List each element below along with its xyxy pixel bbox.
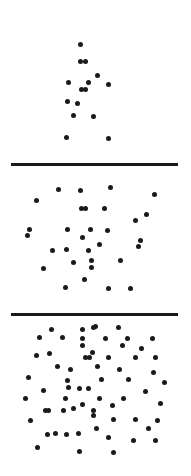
data-point <box>143 389 148 394</box>
data-point <box>50 248 55 253</box>
data-point <box>126 377 131 382</box>
data-point <box>94 426 99 431</box>
data-point <box>106 435 111 440</box>
data-point <box>150 336 155 341</box>
data-point <box>139 346 144 351</box>
data-point <box>56 187 61 192</box>
data-point <box>88 227 93 232</box>
data-point <box>65 99 70 104</box>
data-point <box>80 235 85 240</box>
data-point <box>80 343 85 348</box>
data-point <box>89 258 94 263</box>
data-point <box>146 426 151 431</box>
data-point <box>83 206 88 211</box>
data-point <box>83 59 88 64</box>
data-point <box>125 336 130 341</box>
data-point <box>153 438 158 443</box>
data-point <box>151 370 156 375</box>
data-point <box>106 82 111 87</box>
data-point <box>71 260 76 265</box>
data-point <box>64 247 69 252</box>
dot-density-figure <box>0 0 191 476</box>
data-point <box>34 353 39 358</box>
data-point <box>83 87 88 92</box>
data-point <box>80 402 85 407</box>
data-point <box>55 364 60 369</box>
data-point <box>97 396 102 401</box>
data-point <box>71 113 76 118</box>
data-point <box>45 432 50 437</box>
data-point <box>95 364 100 369</box>
data-point <box>47 351 52 356</box>
data-point <box>131 438 136 443</box>
data-point <box>66 80 71 85</box>
data-point <box>41 388 46 393</box>
data-point <box>99 377 104 382</box>
data-point <box>71 406 76 411</box>
data-point <box>86 80 91 85</box>
data-point <box>26 375 31 380</box>
data-point <box>78 42 83 47</box>
data-point <box>63 285 68 290</box>
data-point <box>64 432 69 437</box>
data-point <box>86 386 91 391</box>
data-point <box>75 101 80 106</box>
data-point <box>162 380 167 385</box>
data-point <box>103 336 108 341</box>
data-point <box>91 114 96 119</box>
panel-divider-2 <box>11 313 178 316</box>
data-point <box>128 286 133 291</box>
data-point <box>86 248 91 253</box>
data-point <box>25 233 30 238</box>
data-point <box>80 336 85 341</box>
data-point <box>106 286 111 291</box>
data-point <box>102 206 107 211</box>
data-point <box>78 188 83 193</box>
data-point <box>97 242 102 247</box>
data-point <box>28 418 33 423</box>
panel-divider-1 <box>11 163 178 166</box>
data-point <box>77 386 82 391</box>
data-point <box>155 418 160 423</box>
data-point <box>121 396 126 401</box>
data-point <box>117 367 122 372</box>
data-point <box>133 218 138 223</box>
data-point <box>120 343 125 348</box>
panel-low-density <box>11 19 178 163</box>
data-point <box>34 198 39 203</box>
data-point <box>76 431 81 436</box>
panel-medium-density <box>11 163 178 313</box>
data-point <box>133 417 138 422</box>
data-point <box>91 413 96 418</box>
data-point <box>68 367 73 372</box>
data-point <box>82 277 87 282</box>
data-point <box>91 408 96 413</box>
data-point <box>63 396 68 401</box>
data-point <box>152 192 157 197</box>
data-point <box>110 403 115 408</box>
data-point <box>95 73 100 78</box>
data-point <box>66 385 71 390</box>
data-point <box>41 266 46 271</box>
data-point <box>111 450 116 455</box>
data-point <box>111 417 116 422</box>
data-point <box>78 59 83 64</box>
data-point <box>64 135 69 140</box>
data-point <box>65 378 70 383</box>
data-point <box>138 238 143 243</box>
data-point <box>53 431 58 436</box>
data-point <box>106 355 111 360</box>
data-point <box>90 350 95 355</box>
data-point <box>87 355 92 360</box>
data-point <box>105 228 110 233</box>
data-point <box>65 227 70 232</box>
data-point <box>89 265 94 270</box>
data-point <box>136 244 141 249</box>
data-point <box>158 401 163 406</box>
data-point <box>37 335 42 340</box>
data-point <box>80 327 85 332</box>
data-point <box>77 449 82 454</box>
data-point <box>23 396 28 401</box>
data-point <box>91 325 96 330</box>
data-point <box>35 445 40 450</box>
